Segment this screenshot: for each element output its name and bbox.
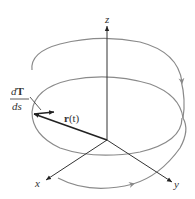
T-bold: T: [17, 85, 25, 97]
curvature-numerator: dT: [11, 85, 25, 97]
helix-bottom-arc: [58, 178, 133, 188]
y-axis-label: y: [173, 178, 179, 190]
curvature-vector: [34, 112, 54, 114]
helix-diagram: z x y r(t) dT ds: [0, 0, 195, 199]
position-vector-label: r(t): [64, 112, 80, 125]
r-args: (t): [69, 112, 80, 125]
y-axis: [107, 140, 172, 182]
z-axis-label: z: [104, 13, 110, 25]
curvature-denominator: ds: [12, 100, 22, 112]
x-axis-label: x: [34, 177, 40, 189]
curvature-leader-line: [30, 97, 41, 110]
